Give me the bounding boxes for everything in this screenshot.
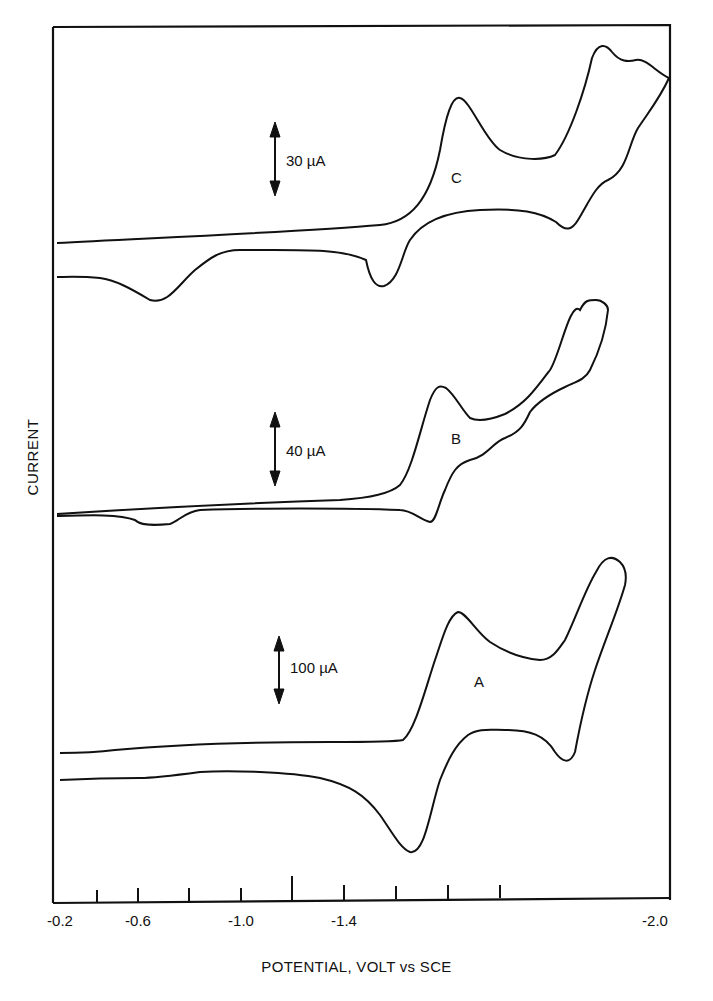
curve-label-c: C	[451, 169, 462, 186]
x-tick-label: -2.0	[642, 912, 668, 929]
scale-label-b: 40 µA	[286, 442, 326, 459]
x-tick-label: -0.2	[47, 912, 73, 929]
scale-bar-a-icon	[274, 636, 284, 704]
x-tick-label: -1.0	[228, 912, 254, 929]
curve-b	[57, 300, 608, 525]
y-axis-title: CURRENT	[24, 419, 41, 496]
cyclic-voltammogram-chart	[0, 0, 713, 1001]
x-tick-label: -0.6	[125, 912, 151, 929]
scale-bar-b-icon	[270, 412, 280, 486]
x-tick-label: -1.4	[331, 912, 357, 929]
curve-a	[60, 558, 626, 852]
x-axis-ticks	[97, 876, 500, 902]
x-axis-title: POTENTIAL, VOLT vs SCE	[0, 958, 713, 975]
curve-c	[57, 46, 669, 301]
plot-frame	[53, 25, 670, 903]
scale-bar-c-icon	[270, 122, 280, 196]
curve-label-a: A	[474, 673, 484, 690]
curve-label-b: B	[451, 430, 461, 447]
scale-label-a: 100 µA	[290, 659, 338, 676]
scale-label-c: 30 µA	[286, 152, 326, 169]
